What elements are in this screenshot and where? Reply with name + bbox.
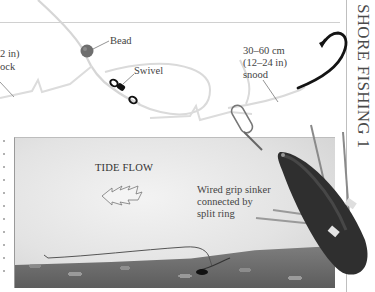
bead-icon (81, 45, 94, 58)
sinker-label-line1: Wired grip sinker (197, 184, 271, 196)
rig-diagram (0, 0, 375, 292)
snood-label-line1: 30–60 cm (243, 45, 285, 57)
snood-label-line3: snood (243, 69, 268, 81)
shock-leader-label-line1: 2 in) (0, 48, 20, 60)
shock-leader-label-line2: ock (0, 61, 15, 73)
tide-arrow-icon (102, 186, 142, 205)
sinker-icon (256, 125, 368, 275)
clip-icon (229, 103, 262, 150)
swivel-label: Swivel (134, 65, 163, 77)
hook-icon (298, 33, 346, 88)
bead-label: Bead (110, 35, 132, 47)
sinker-label-line3: split ring (197, 208, 235, 220)
snood-label-line2: (12–24 in) (243, 57, 287, 69)
sinker-label-line2: connected by (197, 196, 253, 208)
tide-flow-label: TIDE FLOW (95, 162, 153, 173)
